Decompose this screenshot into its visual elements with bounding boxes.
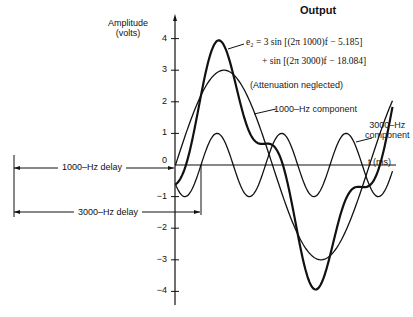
y-tick-label: 4	[153, 33, 167, 43]
label-3000hz-line2: component	[365, 130, 410, 140]
attenuation-note: (Attenuation neglected)	[250, 80, 343, 90]
y-tick-label: 1	[153, 127, 167, 137]
delay-1000-label: 1000–Hz delay	[58, 162, 126, 172]
equation-line1: e₂ = 3 sin [(2π 1000)f − 5.185]	[246, 37, 362, 47]
arrow-icon	[14, 166, 20, 170]
x-axis-label: t (ms)	[368, 157, 391, 167]
arrow-icon	[168, 166, 174, 170]
chart-title: Output	[300, 4, 336, 16]
label-3000hz-line1: 3000–Hz	[365, 120, 410, 130]
y-axis-label-line2: (volts)	[108, 28, 148, 38]
y-tick-label: −1	[153, 191, 167, 201]
label-1000hz-component: 1000–Hz component	[274, 104, 357, 114]
delay-3000-label: 3000–Hz delay	[74, 207, 142, 217]
chart-canvas	[0, 0, 413, 317]
y-tick-label: −2	[153, 222, 167, 232]
arrow-icon	[194, 210, 200, 214]
y-tick-label: −3	[153, 254, 167, 264]
equation-line2: + sin [(2π 3000)f − 18.084]	[262, 56, 366, 66]
label-3000hz-component: 3000–Hz component	[365, 120, 410, 140]
y-tick-label: 2	[153, 96, 167, 106]
leader-1000	[254, 109, 276, 114]
y-axis-arrow	[173, 14, 177, 21]
y-axis-label: Amplitude (volts)	[108, 18, 148, 38]
y-tick-label: −4	[153, 285, 167, 295]
y-tick-label: 0	[153, 155, 167, 165]
arrow-icon	[14, 210, 20, 214]
y-axis-label-line1: Amplitude	[108, 18, 148, 28]
leader-eq	[228, 44, 244, 49]
y-tick-label: 3	[153, 64, 167, 74]
